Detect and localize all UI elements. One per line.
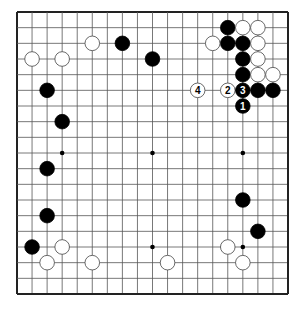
white-stone-disc (251, 52, 266, 67)
black-stone-disc (220, 20, 235, 35)
black-stone (145, 52, 160, 67)
star-point (60, 151, 65, 156)
black-stone (251, 224, 266, 239)
black-stone-disc (236, 193, 251, 208)
white-stone-disc (160, 255, 175, 270)
black-stone (236, 52, 251, 67)
white-stone (251, 20, 266, 35)
black-stone-disc (251, 83, 266, 98)
black-stone (251, 83, 266, 98)
black-stone-disc (40, 161, 55, 176)
white-stone (251, 52, 266, 67)
white-stone (85, 36, 100, 51)
black-stone (55, 114, 70, 129)
black-stone (220, 36, 235, 51)
white-stone-disc (40, 255, 55, 270)
white-stone (160, 255, 175, 270)
white-stone-disc (236, 255, 251, 270)
black-stone-disc (40, 208, 55, 223)
black-stone-disc (236, 36, 251, 51)
white-stone-disc (55, 240, 70, 255)
white-stone (85, 255, 100, 270)
white-stone (25, 52, 40, 67)
white-stone (205, 36, 220, 51)
black-stone (236, 193, 251, 208)
white-stone (266, 67, 281, 82)
star-point (150, 245, 155, 250)
white-stone-disc (251, 20, 266, 35)
go-board: 1234 (0, 0, 302, 309)
white-stone-disc (236, 20, 251, 35)
black-stone-disc (115, 36, 130, 51)
white-stone (220, 240, 235, 255)
move-number: 4 (195, 85, 201, 96)
white-stone (251, 67, 266, 82)
black-stone-disc (236, 52, 251, 67)
white-stone-disc (55, 52, 70, 67)
white-stone-disc (266, 67, 281, 82)
white-stone-disc (251, 67, 266, 82)
black-stone-disc (25, 240, 40, 255)
white-stone (55, 52, 70, 67)
white-stone (251, 36, 266, 51)
white-stone-disc (25, 52, 40, 67)
white-stone-disc (251, 36, 266, 51)
black-stone-disc (145, 52, 160, 67)
white-stone (236, 255, 251, 270)
star-point (241, 245, 246, 250)
white-stone-disc (85, 36, 100, 51)
white-stone (236, 20, 251, 35)
black-stone (40, 161, 55, 176)
move-number: 3 (240, 85, 246, 96)
move-number: 2 (225, 85, 231, 96)
black-stone (236, 67, 251, 82)
black-stone (266, 83, 281, 98)
black-stone (25, 240, 40, 255)
white-stone-disc (85, 255, 100, 270)
star-point (150, 151, 155, 156)
black-stone (236, 36, 251, 51)
black-stone-disc (266, 83, 281, 98)
numbered-stone-2: 2 (220, 83, 235, 98)
move-number: 1 (240, 101, 246, 112)
black-stone-disc (40, 83, 55, 98)
numbered-stone-1: 1 (236, 99, 251, 114)
white-stone-disc (220, 240, 235, 255)
black-stone-disc (220, 36, 235, 51)
white-stone-disc (205, 36, 220, 51)
numbered-stone-4: 4 (190, 83, 205, 98)
black-stone-disc (236, 67, 251, 82)
black-stone (220, 20, 235, 35)
black-stone-disc (251, 224, 266, 239)
black-stone (40, 208, 55, 223)
white-stone (55, 240, 70, 255)
black-stone (40, 83, 55, 98)
black-stone (115, 36, 130, 51)
white-stone (40, 255, 55, 270)
star-point (241, 151, 246, 156)
black-stone-disc (55, 114, 70, 129)
numbered-stone-3: 3 (236, 83, 251, 98)
